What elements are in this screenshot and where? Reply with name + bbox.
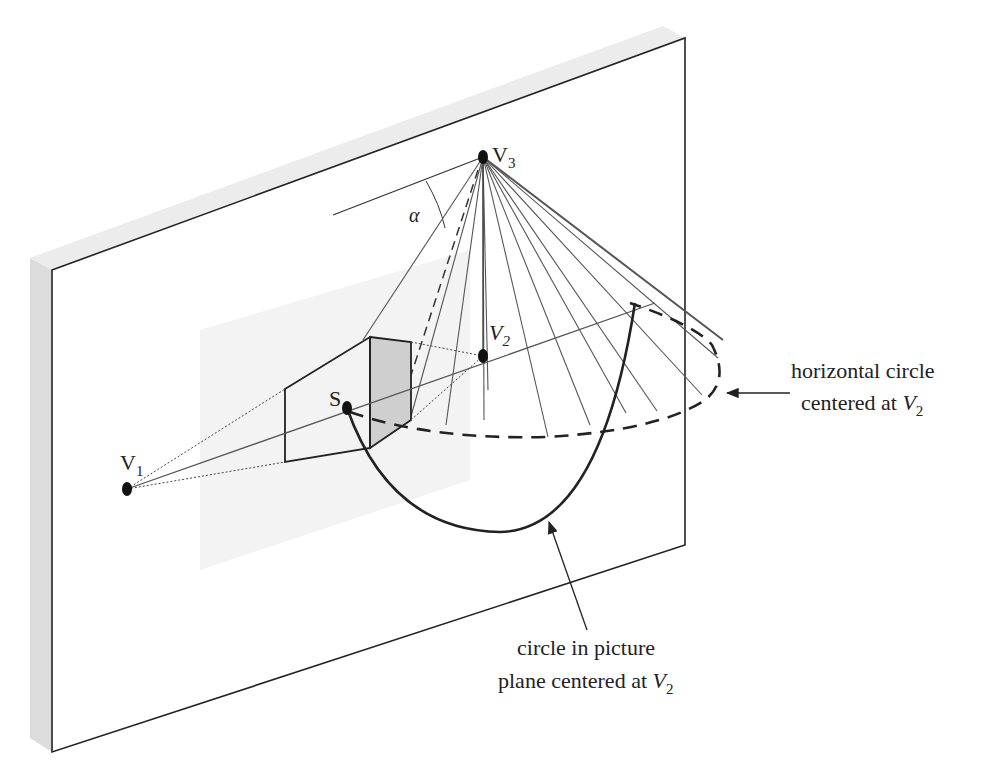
- panel-side-edge: [30, 258, 52, 752]
- annotation-horizontal-circle-line2: centered at V2: [801, 390, 923, 419]
- diagram-canvas: V1 S V2 V3 α horizontal circle centered …: [0, 0, 986, 776]
- point-s: [342, 401, 352, 415]
- point-v2: [478, 349, 488, 363]
- label-alpha: α: [409, 204, 420, 226]
- point-v3: [478, 150, 488, 164]
- label-s: S: [329, 386, 341, 411]
- annotation-picture-circle-line1: circle in picture: [517, 635, 655, 660]
- annotation-horizontal-circle-line1: horizontal circle: [791, 358, 935, 383]
- annotation-picture-circle-line2: plane centered at V2: [498, 668, 673, 697]
- point-v1: [122, 482, 132, 496]
